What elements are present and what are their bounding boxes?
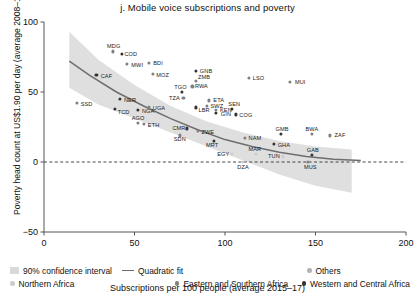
scatter-point-label: LBR (198, 107, 209, 113)
scatter-point-label: UGA (153, 105, 165, 111)
legend-item-confidence-interval: 90% confidence interval (10, 266, 122, 276)
legend-item-quadratic-fit: Quadratic fit (122, 266, 307, 276)
scatter-point-label: SEN (228, 101, 240, 107)
scatter-point-label: MRT (206, 142, 218, 148)
scatter-point-label: KEN (220, 107, 232, 113)
band-swatch-icon (10, 267, 19, 274)
scatter-point-label: COD (124, 51, 137, 57)
scatter-point-label: EGY (217, 151, 229, 157)
legend-item-others: Others (307, 266, 341, 276)
scatter-point-label: LSO (253, 75, 265, 81)
chart-legend: 90% confidence interval Quadratic fit Ot… (10, 264, 410, 290)
plot-area (0, 0, 415, 305)
scatter-point-label: MUS (304, 164, 317, 170)
scatter-point-label: MWI (131, 62, 143, 68)
dot-swatch-others-icon (307, 268, 312, 273)
chart-figure: j. Mobile voice subscriptions and povert… (0, 0, 415, 305)
legend-item-eastern-southern-africa: Eastern and Southern Africa (175, 279, 302, 289)
scatter-point-label: BWA (305, 126, 318, 132)
scatter-point-label: CMR (172, 125, 185, 131)
scatter-point-label: GMB (276, 126, 289, 132)
scatter-point-label: TUN (268, 153, 280, 159)
scatter-point-label: NER (124, 97, 136, 103)
dot-swatch-northern-icon (10, 281, 15, 286)
legend-label-eastern-southern-africa: Eastern and Southern Africa (183, 279, 288, 289)
scatter-point-label: DZA (237, 164, 249, 170)
scatter-point-label: TCD (118, 109, 130, 115)
scatter-point-label: COG (239, 112, 252, 118)
scatter-point-label: RWA (195, 83, 208, 89)
scatter-point-label: TGO (174, 84, 186, 90)
scatter-point-label: AGO (132, 115, 145, 121)
scatter-point-label: ZWE (201, 129, 214, 135)
scatter-point-label: CAF (101, 73, 113, 79)
scatter-point-label: ZMB (198, 74, 210, 80)
scatter-point-label: SDN (174, 136, 186, 142)
legend-label-confidence-interval: 90% confidence interval (23, 266, 112, 276)
legend-label-others: Others (316, 266, 341, 276)
scatter-point-label: MDG (107, 43, 120, 49)
scatter-point-label: SSD (81, 101, 93, 107)
scatter-point-label: GAB (307, 147, 319, 153)
scatter-point-label: GHA (278, 142, 290, 148)
scatter-point-label: MOZ (156, 72, 169, 78)
scatter-point-label: ETH (148, 122, 160, 128)
legend-label-northern-africa: Northern Africa (19, 279, 75, 289)
legend-label-quadratic-fit: Quadratic fit (138, 266, 183, 276)
scatter-point-label: TZA (169, 95, 180, 101)
line-swatch-icon (122, 270, 134, 271)
scatter-point-label: MUI (295, 79, 306, 85)
dot-swatch-eastern-icon (175, 281, 180, 286)
scatter-point-label: MAR (248, 146, 261, 152)
scatter-point-label: NAM (249, 135, 262, 141)
legend-item-western-central-africa: Western and Central Africa (302, 279, 410, 289)
scatter-point-label: ZAF (335, 132, 346, 138)
dot-swatch-western-icon (302, 281, 307, 286)
legend-label-western-central-africa: Western and Central Africa (310, 279, 410, 289)
legend-item-northern-africa: Northern Africa (10, 279, 175, 289)
scatter-point-label: BDI (153, 60, 163, 66)
